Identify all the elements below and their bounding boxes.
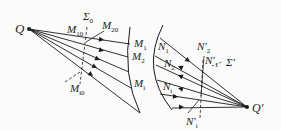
label-m20: M20 xyxy=(101,19,119,34)
optics-diagram: Q Q′ Σ0 M10 M20 Mi0 M1 M2 Mi N1 N2 Ni xyxy=(0,0,281,131)
label-ni: Ni xyxy=(162,80,172,95)
label-q-prime: Q′ xyxy=(252,101,264,115)
label-n2: N2 xyxy=(163,57,175,72)
arrows-left xyxy=(88,37,105,78)
label-q: Q xyxy=(15,21,25,36)
label-m2: M2 xyxy=(131,50,145,65)
label-mi: Mi xyxy=(133,77,145,92)
label-n1-prime: N′1 xyxy=(204,54,219,69)
label-sigma-0: Σ0 xyxy=(82,10,94,25)
ray-diagram-svg: Q Q′ Σ0 M10 M20 Mi0 M1 M2 Mi N1 N2 Ni xyxy=(0,0,281,131)
arrows-right xyxy=(173,57,192,110)
label-sigma-prime: Σ′ xyxy=(225,56,236,68)
label-mi0: Mi0 xyxy=(69,82,85,97)
rays-left xyxy=(29,29,140,113)
leader-mi0 xyxy=(65,72,80,82)
source-point-q xyxy=(27,27,31,31)
label-n2-prime: N′2 xyxy=(196,40,211,55)
label-ni-prime: N′i xyxy=(185,115,198,130)
leader-nip xyxy=(188,100,199,113)
label-n1: N1 xyxy=(157,40,169,55)
image-point-q-prime xyxy=(245,105,249,109)
